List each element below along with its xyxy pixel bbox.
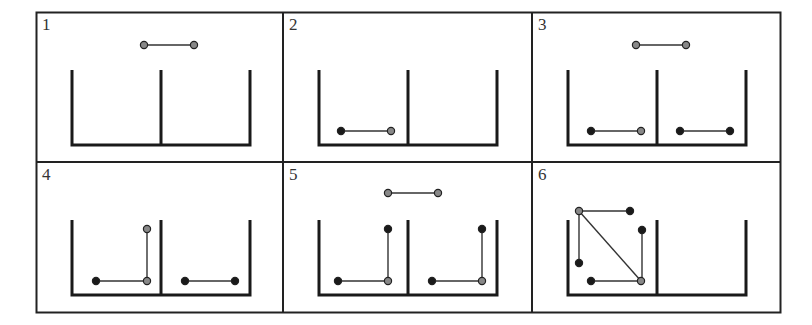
- panel-label: 6: [538, 165, 547, 184]
- node-light: [478, 277, 485, 284]
- node-dark: [587, 127, 594, 134]
- panel-label: 5: [289, 165, 298, 184]
- node-light: [434, 189, 441, 196]
- node-dark: [384, 225, 391, 232]
- panel-label: 2: [289, 15, 298, 34]
- panel-2: 2: [289, 15, 497, 145]
- node-light: [575, 207, 582, 214]
- node-light: [140, 41, 147, 48]
- node-light: [637, 127, 644, 134]
- node-dark: [575, 259, 582, 266]
- node-dark: [337, 127, 344, 134]
- node-dark: [676, 127, 683, 134]
- panel-3: 3: [538, 15, 746, 145]
- container-bins: [319, 220, 497, 295]
- panel-label: 1: [42, 15, 51, 34]
- node-dark: [231, 277, 238, 284]
- node-dark: [428, 277, 435, 284]
- panel-5: 5: [289, 165, 497, 295]
- panel-label: 4: [42, 165, 51, 184]
- node-dark: [334, 277, 341, 284]
- container-bins: [72, 70, 250, 145]
- node-light: [384, 277, 391, 284]
- node-light: [143, 225, 150, 232]
- node-dark: [626, 207, 633, 214]
- node-light: [682, 41, 689, 48]
- node-light: [387, 127, 394, 134]
- panel-6: 6: [538, 165, 746, 295]
- node-dark: [92, 277, 99, 284]
- node-light: [384, 189, 391, 196]
- node-dark: [638, 226, 645, 233]
- node-dark: [587, 277, 594, 284]
- sequence-diagram: 123456: [0, 0, 812, 325]
- node-dark: [478, 225, 485, 232]
- node-light: [190, 41, 197, 48]
- node-light: [632, 41, 639, 48]
- panel-1: 1: [42, 15, 250, 145]
- container-bins: [568, 70, 746, 145]
- node-light: [143, 277, 150, 284]
- node-light: [637, 277, 644, 284]
- container-bins: [568, 220, 746, 295]
- node-dark: [726, 127, 733, 134]
- panel-label: 3: [538, 15, 547, 34]
- node-dark: [181, 277, 188, 284]
- panel-4: 4: [42, 165, 250, 295]
- container-bins: [319, 70, 497, 145]
- link-rod: [579, 211, 641, 281]
